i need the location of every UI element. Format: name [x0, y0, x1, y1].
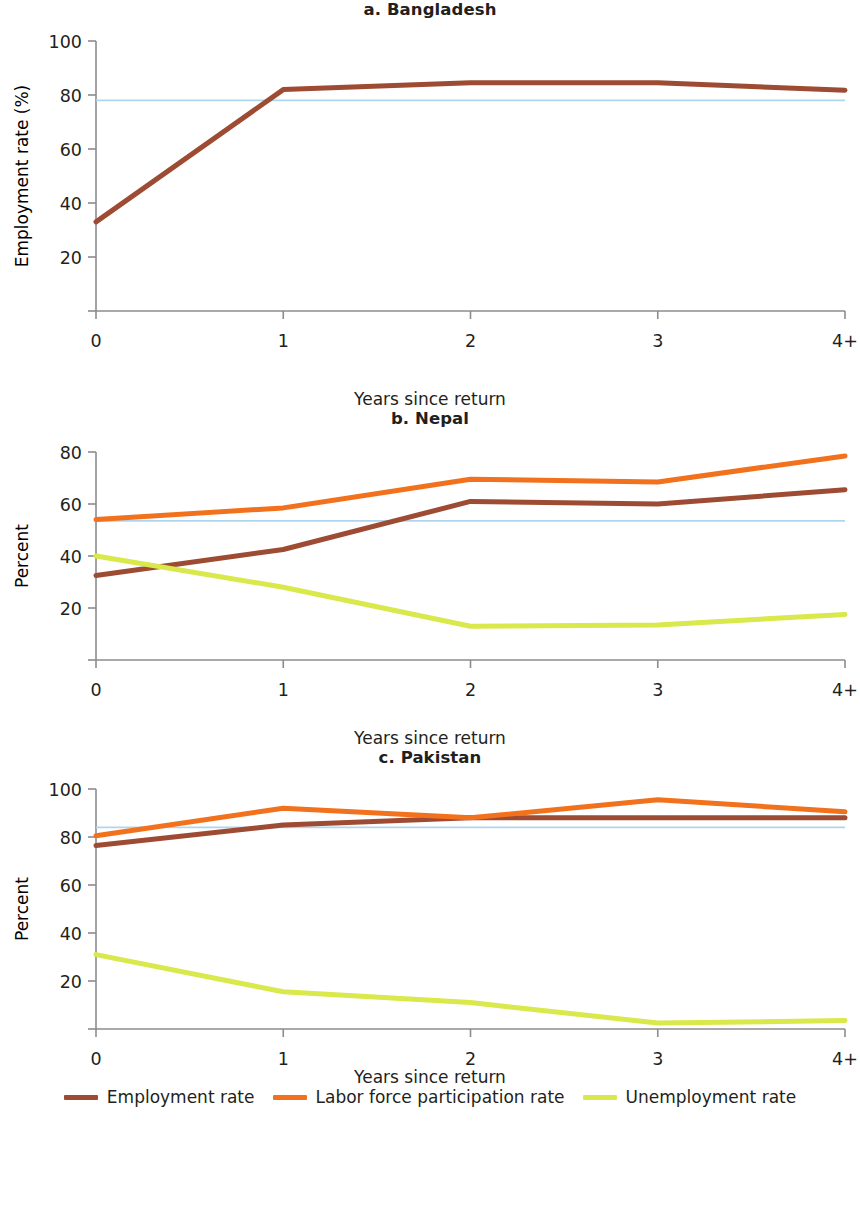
chart-legend: Employment rateLabor force participation…	[0, 1087, 860, 1107]
x-axis-tick-label: 4+	[832, 680, 858, 700]
x-axis-tick-label: 1	[278, 331, 289, 351]
x-axis-tick-label: 1	[278, 680, 289, 700]
series-line	[96, 83, 845, 222]
y-axis-tick-label: 60	[60, 495, 82, 515]
x-axis-tick-label: 0	[90, 680, 101, 700]
figure-root: a. Bangladesh 2040608010001234+Employmen…	[0, 0, 860, 1107]
y-axis-tick-label: 40	[60, 547, 82, 567]
legend-swatch-icon	[583, 1095, 617, 1100]
legend-item: Unemployment rate	[583, 1087, 797, 1107]
y-axis-tick-label: 40	[60, 194, 82, 214]
x-axis-tick-label: 1	[278, 1049, 289, 1067]
panel-title-pakistan: c. Pakistan	[0, 748, 860, 767]
plot-area-nepal: 2040608001234+Percent	[0, 428, 860, 728]
x-axis-tick-label: 3	[652, 680, 663, 700]
panel-bangladesh: a. Bangladesh 2040608010001234+Employmen…	[0, 0, 860, 409]
y-axis-tick-label: 20	[60, 599, 82, 619]
x-axis-tick-label: 0	[90, 331, 101, 351]
x-axis-tick-label: 0	[90, 1049, 101, 1067]
x-axis-tick-label: 4+	[832, 1049, 858, 1067]
chart-svg-pakistan: 2040608010001234+Percent	[0, 767, 860, 1067]
panel-nepal: b. Nepal 2040608001234+Percent Years sin…	[0, 409, 860, 748]
y-axis-tick-label: 80	[60, 443, 82, 463]
panel-title-nepal: b. Nepal	[0, 409, 860, 428]
y-axis-tick-label: 100	[49, 32, 82, 52]
y-axis-tick-label: 80	[60, 86, 82, 106]
legend-item: Labor force participation rate	[273, 1087, 565, 1107]
y-axis-tick-label: 100	[49, 780, 82, 800]
y-axis-title: Employment rate (%)	[12, 85, 32, 268]
plot-area-bangladesh: 2040608010001234+Employment rate (%)	[0, 19, 860, 389]
plot-area-pakistan: 2040608010001234+Percent	[0, 767, 860, 1067]
legend-swatch-icon	[64, 1095, 98, 1100]
y-axis-tick-label: 40	[60, 924, 82, 944]
y-axis-tick-label: 20	[60, 972, 82, 992]
x-axis-tick-label: 2	[465, 331, 476, 351]
x-axis-tick-label: 4+	[832, 331, 858, 351]
series-line	[96, 556, 845, 626]
chart-svg-bangladesh: 2040608010001234+Employment rate (%)	[0, 19, 860, 389]
y-axis-title: Percent	[12, 877, 32, 941]
x-axis-tick-label: 3	[652, 331, 663, 351]
y-axis-tick-label: 20	[60, 248, 82, 268]
chart-svg-nepal: 2040608001234+Percent	[0, 428, 860, 728]
series-line	[96, 490, 845, 576]
legend-label: Unemployment rate	[626, 1087, 797, 1107]
legend-item: Employment rate	[64, 1087, 255, 1107]
panel-pakistan: c. Pakistan 2040608010001234+Percent Yea…	[0, 748, 860, 1087]
x-axis-title-bangladesh: Years since return	[0, 389, 860, 409]
series-line	[96, 818, 845, 846]
panel-title-bangladesh: a. Bangladesh	[0, 0, 860, 19]
x-axis-title-pakistan: Years since return	[0, 1067, 860, 1087]
legend-swatch-icon	[273, 1095, 307, 1100]
y-axis-tick-label: 60	[60, 140, 82, 160]
series-line	[96, 955, 845, 1023]
x-axis-tick-label: 2	[465, 680, 476, 700]
y-axis-title: Percent	[12, 524, 32, 588]
x-axis-tick-label: 2	[465, 1049, 476, 1067]
legend-label: Employment rate	[107, 1087, 255, 1107]
y-axis-tick-label: 60	[60, 876, 82, 896]
x-axis-tick-label: 3	[652, 1049, 663, 1067]
y-axis-tick-label: 80	[60, 828, 82, 848]
series-line	[96, 456, 845, 520]
x-axis-title-nepal: Years since return	[0, 728, 860, 748]
legend-label: Labor force participation rate	[316, 1087, 565, 1107]
